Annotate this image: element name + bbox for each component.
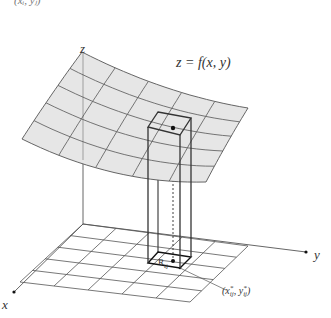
- z-axis-label: z: [80, 42, 85, 55]
- x-axis-label: x: [2, 298, 8, 311]
- surface-equation-label: z = f(x, y): [176, 56, 231, 70]
- sample-point-label: (x*ij, y*ij): [222, 286, 250, 297]
- xy-plane-grid: [20, 224, 248, 302]
- x-axis: [14, 224, 83, 292]
- region-label: Rij: [158, 258, 168, 270]
- y-axis: [83, 224, 306, 252]
- region-subscript: ij: [164, 262, 168, 270]
- surface-mesh: [22, 52, 248, 182]
- y-axis-label: y: [314, 248, 320, 261]
- double-integral-diagram: [0, 0, 331, 318]
